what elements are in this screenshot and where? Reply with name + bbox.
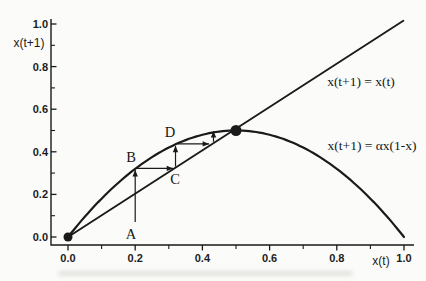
x-tick-label: 0.8: [329, 252, 344, 264]
x-axis-title: x(t): [372, 254, 389, 268]
y-tick-label: 0.8: [33, 61, 48, 73]
x-tick-label: 0.0: [60, 252, 75, 264]
x-tick-label: 1.0: [396, 252, 411, 264]
fixed-point-marker: [231, 125, 242, 136]
y-tick-label: 1.0: [33, 18, 48, 30]
x-tick-label: 0.2: [128, 252, 143, 264]
y-axis-title: x(t+1): [13, 36, 44, 50]
cobweb-arrowhead: [173, 146, 178, 152]
y-tick-label: 0.0: [33, 231, 48, 243]
identity-line-label: x(t+1) = x(t): [327, 74, 395, 90]
y-tick-label: 0.4: [33, 146, 48, 158]
point-label-d: D: [165, 123, 175, 140]
scan-smudge: [58, 271, 353, 276]
point-label-b: B: [126, 148, 136, 165]
x-tick-label: 0.6: [262, 252, 277, 264]
y-tick-label: 0.6: [33, 103, 48, 115]
point-label-a: A: [126, 226, 136, 243]
y-tick-label: 0.2: [33, 188, 48, 200]
point-label-c: C: [170, 171, 180, 188]
cobweb-plot-figure: x(t+1) x(t) x(t+1) = x(t) x(t+1) = αx(1-…: [0, 0, 426, 281]
logistic-curve-label: x(t+1) = αx(1-x): [328, 138, 417, 154]
x-tick-label: 0.4: [195, 252, 210, 264]
fixed-point-marker: [64, 233, 73, 242]
